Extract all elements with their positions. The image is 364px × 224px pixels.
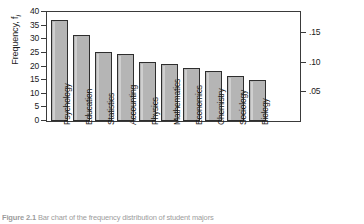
y-axis-left-title-subscript: i — [15, 15, 22, 16]
y-axis-left-title: Frequency, fi — [10, 0, 22, 90]
y-axis-left-tick-mark — [41, 93, 46, 94]
y-axis-left-tick-label: 10 — [30, 88, 39, 99]
y-axis-left-tick-label: 25 — [30, 47, 39, 58]
y-axis-left-tick-mark — [41, 11, 46, 12]
y-axis-left-tick-label: 40 — [30, 6, 39, 17]
y-axis-right-tick-label: .10 — [309, 57, 320, 68]
figure-caption: Figure 2.1 Bar chart of the frequency di… — [2, 213, 362, 222]
y-axis-left-tick-label: 15 — [30, 74, 39, 85]
y-axis-right-tick-mark — [301, 91, 306, 92]
x-axis-category-label: Accounting — [128, 85, 138, 125]
y-axis-left-tick-label: 35 — [30, 20, 39, 31]
y-axis-left-tick-label: 30 — [30, 33, 39, 44]
y-axis-left-tick-label: 5 — [34, 101, 39, 112]
figure-caption-text: Bar chart of the frequency distribution … — [38, 213, 214, 222]
y-axis-left-tick-mark — [41, 79, 46, 80]
figure-container: Frequency, fi 0510152025303540 Relative … — [0, 0, 364, 224]
x-axis-category-label: Chemistry — [216, 89, 226, 125]
y-axis-left-tick-label: 20 — [30, 61, 39, 72]
y-axis-right-tick-label: .15 — [309, 27, 320, 38]
y-axis-left-tick-label: 0 — [34, 115, 39, 126]
y-axis-right: Relative frequency, pi .05.10.15 — [301, 0, 364, 133]
x-axis-category-label: Psychology — [62, 84, 72, 125]
y-axis-left-tick-mark — [41, 66, 46, 67]
y-axis-left-title-text: Frequency, f — [10, 17, 20, 65]
x-axis-category-label: Education — [84, 89, 94, 125]
x-axis-category-label: Statistics — [106, 93, 116, 125]
y-axis-left-tick-mark — [41, 120, 46, 121]
y-axis-right-tick-mark — [301, 32, 306, 33]
y-axis-left-tick-mark — [41, 52, 46, 53]
y-axis-left-tick-mark — [41, 106, 46, 107]
y-axis-right-tick-mark — [301, 62, 306, 63]
x-axis-category-label: Economics — [194, 85, 204, 125]
x-axis-category-labels: PsychologyEducationStatisticsAccountingP… — [47, 124, 300, 204]
x-axis-category-label: Physics — [150, 97, 160, 125]
y-axis-left-tick-mark — [41, 25, 46, 26]
figure-caption-label: Figure 2.1 — [2, 213, 36, 222]
y-axis-left: Frequency, fi 0510152025303540 — [0, 0, 46, 133]
y-axis-left-tick-mark — [41, 38, 46, 39]
x-axis-category-label: Biology — [260, 99, 270, 125]
y-axis-right-tick-label: .05 — [309, 86, 320, 97]
x-axis-category-label: Sociology — [238, 90, 248, 125]
x-axis-category-label: Mathematics — [172, 79, 182, 125]
